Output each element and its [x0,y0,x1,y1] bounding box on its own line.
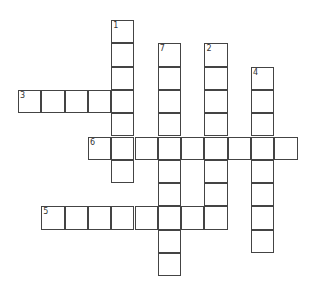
crossword-cell[interactable] [111,67,134,90]
clue-number: 7 [160,44,165,53]
crossword-cell[interactable] [158,253,181,276]
crossword-cell[interactable] [158,206,181,229]
crossword-cell[interactable] [251,137,274,160]
crossword-cell[interactable] [251,206,274,229]
crossword-cell[interactable] [204,113,227,136]
crossword-cell[interactable] [65,206,88,229]
crossword-cell[interactable] [158,113,181,136]
crossword-cell[interactable] [41,90,64,113]
crossword-cell[interactable] [88,206,111,229]
clue-number: 6 [90,138,95,147]
crossword-cell[interactable] [204,160,227,183]
crossword-cell[interactable] [251,113,274,136]
crossword-cell[interactable] [228,137,251,160]
crossword-cell[interactable]: 1 [111,20,134,43]
crossword-grid: 1724365 [0,0,311,293]
crossword-cell[interactable] [111,206,134,229]
crossword-cell[interactable] [204,90,227,113]
crossword-cell[interactable] [251,160,274,183]
crossword-cell[interactable] [111,113,134,136]
crossword-cell[interactable] [204,137,227,160]
crossword-cell[interactable] [251,90,274,113]
crossword-cell[interactable]: 2 [204,43,227,66]
clue-number: 5 [43,207,48,216]
crossword-cell[interactable] [251,230,274,253]
crossword-cell[interactable] [158,160,181,183]
crossword-cell[interactable] [65,90,88,113]
clue-number: 3 [20,91,25,100]
crossword-cell[interactable] [251,183,274,206]
crossword-cell[interactable] [158,67,181,90]
crossword-cell[interactable] [158,230,181,253]
crossword-cell[interactable]: 5 [41,206,64,229]
crossword-cell[interactable] [158,90,181,113]
crossword-cell[interactable] [135,137,158,160]
crossword-cell[interactable]: 3 [18,90,41,113]
crossword-cell[interactable] [88,90,111,113]
crossword-cell[interactable] [111,90,134,113]
clue-number: 1 [113,21,118,30]
crossword-cell[interactable] [204,67,227,90]
crossword-cell[interactable] [158,183,181,206]
crossword-cell[interactable] [111,160,134,183]
clue-number: 2 [206,44,211,53]
crossword-cell[interactable] [274,137,297,160]
crossword-cell[interactable]: 6 [88,137,111,160]
clue-number: 4 [253,68,258,77]
crossword-cell[interactable] [111,43,134,66]
crossword-cell[interactable] [204,183,227,206]
crossword-cell[interactable]: 4 [251,67,274,90]
crossword-cell[interactable] [181,137,204,160]
crossword-cell[interactable] [204,206,227,229]
crossword-cell[interactable] [181,206,204,229]
crossword-cell[interactable] [135,206,158,229]
crossword-cell[interactable] [158,137,181,160]
crossword-cell[interactable]: 7 [158,43,181,66]
crossword-cell[interactable] [111,137,134,160]
